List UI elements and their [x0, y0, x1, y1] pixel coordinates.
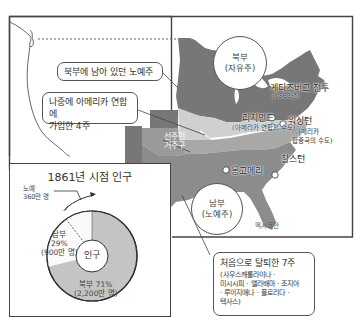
- callout-first-line1: (사우스캐롤라이나 ·: [220, 271, 308, 280]
- native-territory-label: 선주민 거주구: [164, 132, 185, 150]
- callout-first-seven-states: 처음으로 탈퇴한 7주 (사우스캐롤라이나 · 미시시피 · 앨라배마 · 조지…: [213, 252, 315, 316]
- richmond-name: 리치먼드: [242, 113, 274, 123]
- richmond-sub: (아메리카 연합의 수도): [232, 125, 295, 132]
- native-territory-line2: 거주구: [164, 141, 185, 150]
- washington-label: 워싱턴: [288, 116, 312, 126]
- charleston-label: 찰스턴: [281, 154, 305, 164]
- south-pop-line1: 남부: [41, 230, 78, 239]
- montgomery-label: 몽고메리: [231, 166, 263, 176]
- south-subtitle: (노예주): [202, 209, 233, 220]
- gulf-of-mexico-label: 멕시코만: [255, 223, 279, 230]
- callout-later-line1: 나중에 아메리카 연합에: [49, 96, 131, 120]
- washington-name: 워싱턴: [288, 116, 312, 126]
- north-pop-line1: 북부 71%: [74, 280, 118, 289]
- gettysburg-year: (1863년): [270, 93, 329, 100]
- gettysburg-label: 게티즈버그 전투 (1863년): [270, 83, 329, 101]
- south-pop-line3: (900만 명): [41, 248, 78, 257]
- washington-sub: (아메리카 합중국의 수도): [292, 128, 333, 146]
- north-pop-line2: (2,200만 명): [74, 289, 118, 298]
- north-title: 북부: [232, 52, 248, 63]
- callout-first-title: 처음으로 탈퇴한 7주: [220, 257, 308, 269]
- south-pop-line2: 29%: [41, 239, 78, 248]
- donut-center-label: 인구: [76, 250, 108, 260]
- callout-first-line4: 텍사스): [220, 298, 308, 307]
- north-region-label: 북부 (자유주): [213, 36, 267, 90]
- callout-later-line2: 가입한 4주: [49, 120, 131, 132]
- north-subtitle: (자유주): [225, 63, 256, 74]
- callout-border-slave-states: 북부에 남아 있던 노예주: [57, 62, 163, 81]
- south-population-label: 남부 29% (900만 명): [41, 230, 78, 257]
- population-chart-panel: 1861년 시점 인구 노예 360만 명 남부 29% (900만 명): [9, 163, 171, 317]
- callout-first-line2: 미시시피 · 앨라배마 · 조지아: [220, 280, 308, 289]
- native-territory-line1: 선주민: [164, 132, 185, 141]
- slave-note-line2: 360만 명: [23, 193, 49, 201]
- washington-sub-line2: 합중국의 수도): [292, 137, 333, 146]
- south-title: 남부: [209, 198, 225, 209]
- callout-border-text: 북부에 남아 있던 노예주: [64, 67, 153, 77]
- richmond-label: 리치먼드: [242, 113, 274, 123]
- north-population-label: 북부 71% (2,200만 명): [74, 280, 118, 299]
- civil-war-map-figure: 북부 (자유주) 남부 (노예주) 선주민 거주구 멕시코만 게티즈버그 전투 …: [0, 0, 361, 332]
- south-region-label: 남부 (노예주): [191, 183, 243, 235]
- washington-sub-line1: (아메리카: [292, 128, 333, 137]
- callout-later-four-states: 나중에 아메리카 연합에 가입한 4주: [42, 92, 138, 124]
- slave-population-note: 노예 360만 명: [23, 185, 49, 202]
